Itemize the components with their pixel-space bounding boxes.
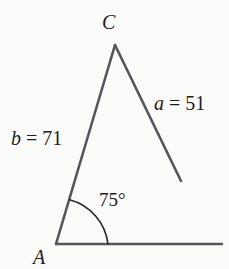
angle-measure-label: 75° xyxy=(99,190,126,209)
side-b-line xyxy=(56,45,115,244)
geometry-figure: C A a = 51 b = 71 75° xyxy=(0,0,229,269)
vertex-label-a: A xyxy=(33,247,45,267)
side-a-equation: = 51 xyxy=(164,92,205,114)
side-a-label: a = 51 xyxy=(154,93,205,113)
vertex-label-c: C xyxy=(102,12,115,32)
side-b-equation: = 71 xyxy=(21,127,62,149)
side-a-variable: a xyxy=(154,92,164,114)
side-b-variable: b xyxy=(11,127,21,149)
side-b-label: b = 71 xyxy=(11,128,62,148)
